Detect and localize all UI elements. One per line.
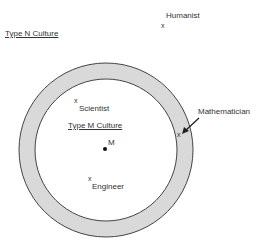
type-n-culture-label: Type N Culture <box>5 30 58 38</box>
mathematician-marker: x <box>177 131 181 138</box>
scientist-label: Scientist <box>79 105 109 113</box>
scientist-marker: x <box>74 97 78 104</box>
humanist-label: Humanist <box>166 12 200 20</box>
engineer-marker: x <box>88 175 92 182</box>
humanist-marker: x <box>161 22 165 29</box>
engineer-label: Engineer <box>92 183 124 191</box>
m-label: M <box>108 139 115 147</box>
mathematician-label: Mathematician <box>198 108 250 116</box>
type-m-culture-label: Type M Culture <box>68 122 122 130</box>
